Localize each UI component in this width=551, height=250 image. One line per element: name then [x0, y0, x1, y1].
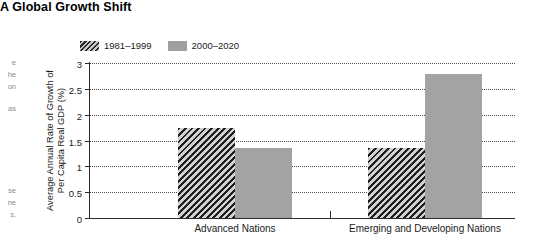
- plot-area: 00.511.522.53 Advanced NationsEmerging a…: [90, 63, 515, 218]
- y-axis-tick-label: 0.5: [69, 188, 82, 199]
- y-axis-tick-label: 2: [77, 110, 82, 121]
- category-separator-tick: [330, 211, 331, 219]
- legend-label-1981-1999: 1981–1999: [104, 40, 152, 51]
- plot-frame: 00.511.522.53 Advanced NationsEmerging a…: [90, 63, 515, 218]
- bar-2-2: [425, 74, 482, 218]
- gridline: [90, 63, 515, 64]
- legend-swatch-solid-icon: [168, 41, 187, 51]
- y-axis-tick-label: 0: [77, 214, 82, 225]
- y-axis-tick-label: 2.5: [69, 84, 82, 95]
- chart-legend: 1981–1999 2000–2020: [80, 40, 239, 51]
- legend-item-1981-1999: 1981–1999: [80, 40, 152, 51]
- text-fragment: e: [0, 58, 16, 67]
- legend-swatch-hatched-icon: [80, 41, 99, 51]
- y-axis-tick-label: 1.5: [69, 136, 82, 147]
- x-axis-line: [89, 218, 515, 219]
- text-fragment: on: [0, 82, 16, 91]
- text-fragment: as: [0, 104, 16, 113]
- category-label: Advanced Nations: [194, 223, 275, 234]
- text-fragment: ne: [0, 198, 16, 207]
- y-axis-tick-label: 1: [77, 162, 82, 173]
- y-axis-title: Average Annual Rate of Growth of Per Cap…: [44, 63, 68, 218]
- text-fragment: he: [0, 70, 16, 79]
- text-fragment: s.: [0, 210, 16, 219]
- category-label: Emerging and Developing Nations: [349, 223, 501, 234]
- legend-label-2000-2020: 2000–2020: [192, 40, 240, 51]
- chart-card: 1981–1999 2000–2020 Average Annual Rate …: [18, 26, 525, 250]
- legend-item-2000-2020: 2000–2020: [168, 40, 240, 51]
- bar-2-1: [368, 148, 425, 218]
- bar-1-2: [235, 148, 292, 218]
- page-title: A Global Growth Shift: [0, 0, 132, 14]
- bar-1-1: [178, 128, 235, 218]
- y-axis-tick-label: 3: [77, 59, 82, 70]
- text-fragment: se: [0, 186, 16, 195]
- y-axis-line: [89, 62, 90, 219]
